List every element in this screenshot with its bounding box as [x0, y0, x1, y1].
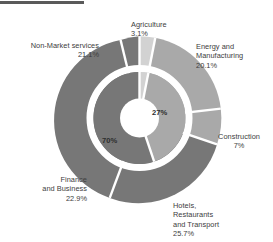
- donut-chart-figure: Agriculture 3.1% Energy and Manufacturin…: [0, 0, 273, 242]
- label-energy-manufacturing: Energy and Manufacturing 20.1%: [196, 33, 272, 79]
- label-hotels-restaurants-transport-name: Hotels, Restaurants and Transport: [173, 201, 219, 228]
- label-non-market-services-name: Non-Market services: [31, 41, 99, 50]
- label-non-market-services: Non-Market services 21.1%: [1, 32, 99, 69]
- inner-value-industry: 27%: [152, 108, 167, 117]
- label-construction-percent: 7%: [207, 141, 271, 150]
- inner-value-services: 70%: [102, 136, 117, 145]
- label-finance-business-percent: 22.9%: [2, 194, 87, 203]
- donut-center-hole: [120, 99, 159, 138]
- label-finance-business-name: Finance and Business: [42, 175, 87, 193]
- label-energy-manufacturing-percent: 20.1%: [196, 61, 272, 70]
- label-agriculture-percent: 3.1%: [131, 29, 201, 38]
- label-finance-business: Finance and Business 22.9%: [2, 166, 87, 212]
- label-construction: Construction 7%: [207, 123, 271, 160]
- label-energy-manufacturing-name: Energy and Manufacturing: [196, 42, 243, 60]
- label-hotels-restaurants-transport: Hotels, Restaurants and Transport 25.7%: [173, 192, 269, 242]
- label-agriculture: Agriculture 3.1%: [131, 11, 201, 48]
- label-non-market-services-percent: 21.1%: [1, 50, 99, 59]
- label-agriculture-name: Agriculture: [131, 20, 167, 29]
- label-construction-name: Construction: [218, 132, 260, 141]
- label-hotels-restaurants-transport-percent: 25.7%: [173, 229, 269, 238]
